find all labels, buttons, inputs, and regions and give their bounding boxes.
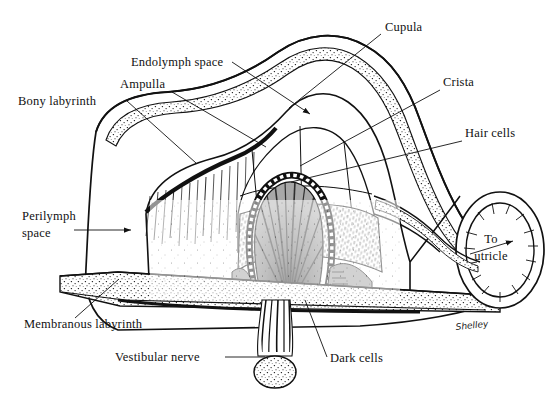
- label-to-utricle-line2: utricle: [474, 249, 508, 263]
- label-cupula: Cupula: [385, 20, 423, 34]
- label-perilymph-space-line1: Perilymph: [22, 209, 76, 223]
- vestibular-nerve-bundle: [254, 300, 296, 388]
- label-crista: Crista: [443, 75, 474, 89]
- label-hair-cells: Hair cells: [465, 126, 515, 140]
- label-endolymph-space: Endolymph space: [131, 55, 223, 69]
- label-membranous-labyrinth: Membranous labyrinth: [24, 317, 143, 331]
- anatomy-illustration: Bony labyrinth Endolymph space Ampulla C…: [0, 0, 560, 401]
- label-dark-cells: Dark cells: [330, 351, 383, 365]
- label-perilymph-space-line2: space: [22, 226, 51, 240]
- interior-texture: [150, 200, 400, 300]
- label-bony-labyrinth: Bony labyrinth: [18, 94, 97, 108]
- label-to-utricle-line1: To: [484, 232, 497, 246]
- label-ampulla: Ampulla: [120, 77, 165, 91]
- label-vestibular-nerve: Vestibular nerve: [115, 350, 200, 364]
- figure-canvas: Bony labyrinth Endolymph space Ampulla C…: [0, 0, 560, 401]
